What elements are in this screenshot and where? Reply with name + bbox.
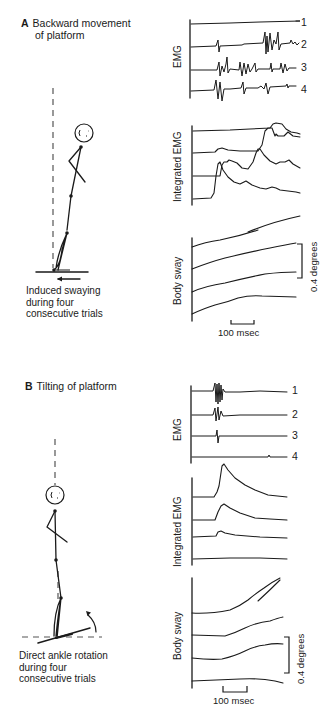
- panel-b-trace-1: 1: [292, 384, 298, 396]
- panel-a-angle-scale: 0.4 degrees: [308, 242, 319, 292]
- panel-a-iemg-label: Integrated EMG: [172, 131, 183, 202]
- panel-a-sway-traces: [192, 216, 302, 324]
- panel-b-sway-traces: [192, 578, 289, 692]
- panel-a-emg-traces: [190, 20, 300, 101]
- panel-b-angle-scale: 0.4 degrees: [295, 634, 306, 684]
- panel-a-caption-line2: during four: [26, 297, 74, 308]
- panel-b-caption-line3: consecutive trials: [19, 673, 96, 684]
- panel-b-trace-2: 2: [292, 408, 298, 420]
- figure-graphics: [0, 0, 327, 726]
- panel-a-caption: Induced swaying during four consecutive …: [26, 285, 103, 320]
- panel-b-caption-line1: Direct ankle rotation: [19, 650, 108, 661]
- panel-b-title-line1: Tilting of platform: [37, 380, 117, 392]
- panel-a-time-scale: 100 msec: [218, 327, 259, 338]
- panel-b-trace-3: 3: [292, 429, 298, 441]
- panel-a-caption-line1: Induced swaying: [26, 285, 101, 296]
- panel-a-iemg-traces: [192, 123, 300, 205]
- panel-b-stick-figure: [22, 439, 102, 643]
- panel-b-emg-traces: [191, 383, 287, 463]
- panel-b-emg-label: EMG: [172, 418, 183, 441]
- panel-b-time-scale: 100 msec: [213, 695, 254, 706]
- panel-a-stick-figure: [36, 88, 93, 282]
- panel-b-caption-line2: during four: [19, 662, 67, 673]
- panel-a-sway-label: Body sway: [172, 257, 183, 305]
- panel-b-letter: B: [25, 380, 33, 392]
- panel-b-iemg-label: Integrated EMG: [172, 496, 183, 567]
- panel-a-caption-line3: consecutive trials: [26, 308, 103, 319]
- panel-b-title: BTilting of platform: [25, 380, 117, 392]
- panel-a-trace-1: 1: [301, 16, 307, 28]
- panel-a-trace-2: 2: [301, 38, 307, 50]
- figure: ABackward movement of platform: [0, 0, 327, 726]
- panel-b-caption: Direct ankle rotation during four consec…: [19, 650, 108, 685]
- panel-b-iemg-traces: [192, 464, 287, 565]
- panel-a-trace-3: 3: [301, 61, 307, 73]
- panel-b-trace-4: 4: [292, 450, 298, 462]
- panel-a-trace-4: 4: [301, 83, 307, 95]
- panel-b-sway-label: Body sway: [172, 612, 183, 660]
- panel-a-emg-label: EMG: [172, 45, 183, 68]
